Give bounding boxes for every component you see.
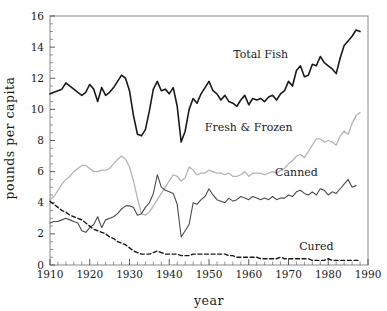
y-axis-title: pounds per capita bbox=[2, 77, 17, 200]
y-tick-label: 2 bbox=[37, 227, 44, 239]
data-series-group bbox=[50, 30, 360, 260]
series-label-cured: Cured bbox=[299, 240, 333, 253]
x-axis-tick-labels: 191019201930194019501960197019801990 bbox=[37, 268, 382, 280]
x-axis-title: year bbox=[193, 293, 224, 308]
y-axis-ticks bbox=[50, 16, 55, 265]
x-tick-label: 1910 bbox=[37, 268, 64, 280]
y-axis-tick-labels: 0246810121416 bbox=[31, 10, 45, 271]
x-tick-label: 1930 bbox=[116, 268, 143, 280]
y-tick-label: 10 bbox=[31, 103, 44, 115]
y-tick-label: 12 bbox=[31, 72, 44, 84]
y-tick-label: 6 bbox=[37, 165, 44, 177]
x-tick-label: 1990 bbox=[355, 268, 382, 280]
plot-frame bbox=[50, 16, 368, 265]
x-tick-label: 1950 bbox=[196, 268, 223, 280]
x-tick-label: 1960 bbox=[235, 268, 262, 280]
x-tick-label: 1970 bbox=[275, 268, 302, 280]
x-tick-label: 1940 bbox=[156, 268, 183, 280]
y-tick-label: 14 bbox=[31, 41, 45, 53]
series-line-canned bbox=[50, 175, 356, 237]
x-tick-label: 1980 bbox=[315, 268, 342, 280]
x-tick-label: 1920 bbox=[76, 268, 103, 280]
y-tick-label: 8 bbox=[37, 134, 44, 146]
plot-area-border bbox=[50, 16, 368, 265]
series-label-canned: Canned bbox=[275, 166, 318, 179]
chart-figure: 0246810121416 19101920193019401950196019… bbox=[0, 0, 387, 311]
series-label-fresh-frozen: Fresh & Frozen bbox=[205, 121, 293, 134]
y-tick-label: 4 bbox=[37, 196, 44, 208]
y-tick-label: 16 bbox=[31, 10, 45, 22]
series-annotations: Total FishFresh & FrozenCannedCured bbox=[205, 48, 334, 253]
series-label-total-fish: Total Fish bbox=[233, 48, 288, 61]
chart-canvas: 0246810121416 19101920193019401950196019… bbox=[0, 0, 387, 311]
x-axis-ticks bbox=[50, 259, 368, 265]
